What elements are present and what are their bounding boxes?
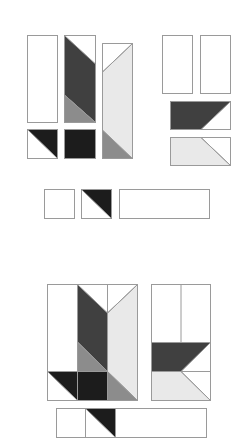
white-rect-right <box>201 36 231 94</box>
assembled-right-section <box>152 285 211 401</box>
black-square <box>65 130 96 159</box>
white-rect-left <box>163 36 193 94</box>
quilt-assembly-diagram <box>0 0 248 448</box>
black-hst-square-2 <box>82 190 112 219</box>
assembled-bottom-strip <box>57 409 207 438</box>
white-small-square <box>45 190 75 219</box>
dark-tall-unit <box>65 36 96 123</box>
exploded-units <box>28 36 231 219</box>
light-horizontal-unit <box>171 138 231 166</box>
white-long-rect <box>120 190 210 219</box>
white-tall-rect <box>28 36 58 123</box>
assembled-block <box>48 285 211 438</box>
light-tall-unit <box>103 44 133 159</box>
assembled-left-section <box>48 285 138 401</box>
black-hst-square <box>28 130 58 159</box>
dark-horizontal-unit <box>171 102 231 130</box>
